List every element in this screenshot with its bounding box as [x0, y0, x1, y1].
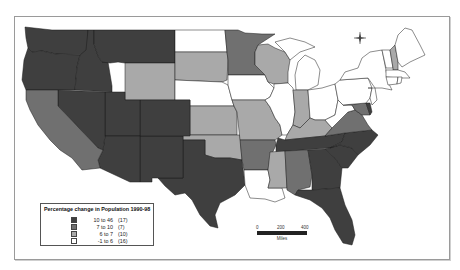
- state-alabama: [285, 150, 312, 195]
- legend-title: Percentage change in Population 1990-98: [44, 206, 150, 212]
- scale-tick: 0: [256, 225, 259, 230]
- state-rhode-island: [397, 77, 402, 84]
- legend-swatch: [71, 217, 77, 223]
- state-north-dakota: [175, 30, 227, 52]
- state-ohio: [308, 84, 338, 120]
- state-wyoming: [125, 63, 175, 100]
- legend-range: 6 to 7: [83, 231, 113, 237]
- state-arizona: [98, 136, 140, 182]
- legend-swatch: [71, 231, 77, 237]
- compass-rose-icon: [352, 30, 368, 46]
- legend-range: 10 to 46: [83, 217, 113, 223]
- scale-tick: 400: [301, 225, 309, 230]
- legend-item: 10 to 46 (17): [71, 216, 128, 223]
- state-montana: [94, 30, 175, 63]
- legend-count: (10): [118, 231, 128, 237]
- state-washington: [25, 27, 88, 55]
- state-colorado: [140, 100, 190, 136]
- state-new-mexico: [140, 136, 183, 182]
- legend-swatch: [71, 238, 77, 244]
- state-south-dakota: [175, 52, 228, 82]
- state-connecticut: [386, 77, 398, 85]
- north-arrow-compass: [352, 30, 368, 46]
- legend-item: 7 to 10 (7): [71, 223, 125, 230]
- map-legend: Percentage change in Population 1990-98 …: [40, 203, 154, 246]
- scale-line: [257, 231, 307, 235]
- scale-unit: Miles: [257, 236, 307, 241]
- scale-tick: 200: [277, 225, 285, 230]
- legend-item: -1 to 6 (16): [71, 237, 128, 244]
- state-mississippi: [268, 151, 287, 188]
- legend-count: (17): [118, 217, 128, 223]
- state-maine: [395, 28, 425, 67]
- state-pennsylvania: [335, 78, 372, 105]
- legend-item: 6 to 7 (10): [71, 230, 128, 237]
- scale-bar: 0 200 400 Miles: [257, 225, 307, 241]
- legend-count: (7): [118, 224, 125, 230]
- legend-range: 7 to 10: [83, 224, 113, 230]
- legend-count: (16): [118, 238, 128, 244]
- state-kansas: [190, 106, 237, 135]
- legend-swatch: [71, 224, 77, 230]
- legend-range: -1 to 6: [83, 238, 113, 244]
